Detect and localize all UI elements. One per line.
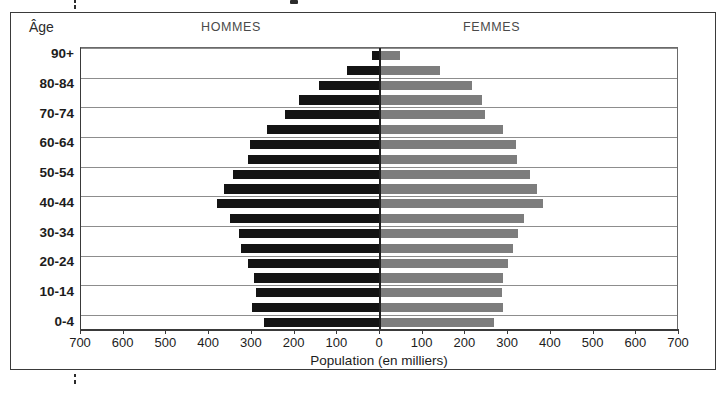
bar-male-40-44 <box>217 199 380 208</box>
scan-artifact-top <box>0 0 727 10</box>
bar-female-5-9 <box>380 303 503 312</box>
age-axis-labels: 0-410-1420-2430-3440-4450-5460-6470-7480… <box>11 47 78 329</box>
bar-female-90+ <box>380 51 400 60</box>
bar-male-20-24 <box>248 259 380 268</box>
bar-female-70-74 <box>380 110 485 119</box>
x-tick <box>165 329 166 334</box>
bar-male-5-9 <box>252 303 380 312</box>
x-tick-label: 700 <box>667 335 689 350</box>
bar-female-15-19 <box>380 273 503 282</box>
x-tick <box>379 329 380 334</box>
plot-area <box>80 47 678 329</box>
bar-female-0-4 <box>380 318 494 327</box>
chart-header: Âge HOMMES FEMMES <box>11 19 715 41</box>
x-tick-label: 200 <box>283 335 305 350</box>
bar-male-75-79 <box>299 95 380 104</box>
bar-female-40-44 <box>380 199 543 208</box>
bar-female-35-39 <box>380 214 524 223</box>
scan-speck <box>290 0 298 4</box>
bar-female-85-89 <box>380 66 440 75</box>
scan-speck <box>74 374 76 377</box>
bar-male-35-39 <box>230 214 380 223</box>
bar-female-75-79 <box>380 95 482 104</box>
age-label-50-54: 50-54 <box>39 166 74 180</box>
x-tick-label: 100 <box>411 335 433 350</box>
x-tick <box>550 329 551 334</box>
bar-female-10-14 <box>380 288 502 297</box>
x-tick <box>635 329 636 334</box>
legend-label-men: HOMMES <box>201 20 261 34</box>
x-tick-label: 600 <box>112 335 134 350</box>
center-axis-line <box>379 48 381 329</box>
bar-female-45-49 <box>380 184 537 193</box>
age-label-70-74: 70-74 <box>39 107 74 121</box>
age-label-90+: 90+ <box>51 47 74 61</box>
age-label-40-44: 40-44 <box>39 196 74 210</box>
chart-frame: Âge HOMMES FEMMES 0-410-1420-2430-3440-4… <box>10 12 716 370</box>
x-tick-label: 400 <box>197 335 219 350</box>
x-tick-label: 0 <box>375 335 382 350</box>
x-tick <box>251 329 252 334</box>
x-tick-label: 700 <box>69 335 91 350</box>
bar-female-55-59 <box>380 155 517 164</box>
bar-male-80-84 <box>319 81 380 90</box>
bar-female-65-69 <box>380 125 503 134</box>
bar-female-60-64 <box>380 140 516 149</box>
bar-female-25-29 <box>380 244 513 253</box>
bar-male-50-54 <box>233 170 380 179</box>
bar-male-70-74 <box>285 110 380 119</box>
bar-male-85-89 <box>347 66 380 75</box>
x-tick <box>422 329 423 334</box>
bar-male-45-49 <box>224 184 380 193</box>
scan-speck <box>74 0 76 3</box>
scan-speck <box>74 380 76 384</box>
legend-label-women: FEMMES <box>463 20 520 34</box>
age-axis-title: Âge <box>29 19 54 35</box>
age-label-60-64: 60-64 <box>39 136 74 150</box>
bar-male-60-64 <box>250 140 380 149</box>
bar-male-15-19 <box>254 273 380 282</box>
bar-male-25-29 <box>241 244 380 253</box>
x-tick-label: 400 <box>539 335 561 350</box>
bar-male-30-34 <box>239 229 380 238</box>
bar-male-55-59 <box>248 155 380 164</box>
x-tick-label: 200 <box>454 335 476 350</box>
age-label-30-34: 30-34 <box>39 226 74 240</box>
age-label-10-14: 10-14 <box>39 285 74 299</box>
x-tick <box>123 329 124 334</box>
bar-female-30-34 <box>380 229 518 238</box>
x-tick <box>593 329 594 334</box>
x-tick-label: 500 <box>155 335 177 350</box>
age-label-80-84: 80-84 <box>39 77 74 91</box>
bar-male-0-4 <box>264 318 380 327</box>
bar-female-80-84 <box>380 81 472 90</box>
bar-female-20-24 <box>380 259 508 268</box>
scan-speck <box>74 5 76 9</box>
x-tick <box>80 329 81 334</box>
bar-male-10-14 <box>256 288 380 297</box>
x-axis-tick-labels: 7006005004003002001000100200300400500600… <box>80 335 678 353</box>
x-axis-title: Population (en milliers) <box>80 353 678 368</box>
scan-artifact-bottom <box>0 372 727 394</box>
x-tick <box>678 329 679 334</box>
x-tick-label: 500 <box>582 335 604 350</box>
x-tick <box>208 329 209 334</box>
x-tick-label: 100 <box>325 335 347 350</box>
x-tick <box>336 329 337 334</box>
bar-male-65-69 <box>267 125 380 134</box>
x-tick <box>294 329 295 334</box>
x-tick-label: 300 <box>496 335 518 350</box>
x-tick-label: 300 <box>240 335 262 350</box>
age-label-20-24: 20-24 <box>39 255 74 269</box>
x-tick-label: 600 <box>624 335 646 350</box>
x-tick <box>507 329 508 334</box>
x-tick <box>464 329 465 334</box>
bar-female-50-54 <box>380 170 530 179</box>
age-label-0-4: 0-4 <box>54 315 74 329</box>
